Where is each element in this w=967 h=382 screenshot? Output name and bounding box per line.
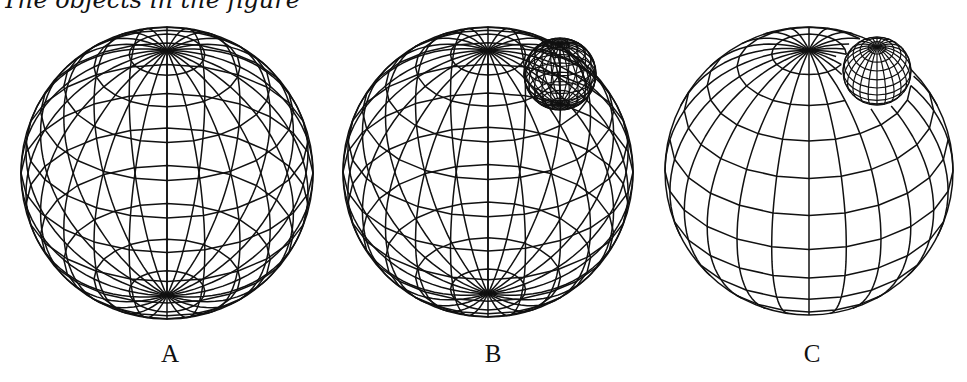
sphere-figure (0, 0, 967, 382)
label-a: A (150, 340, 190, 368)
label-b: B (473, 340, 513, 368)
sphere-b-wireframe-with-small-sphere (343, 27, 633, 317)
small-sphere-c (843, 37, 911, 105)
label-c: C (792, 340, 832, 368)
sphere-a-wireframe (21, 27, 313, 319)
sphere-c-hidden-line-with-small-sphere (665, 27, 953, 315)
